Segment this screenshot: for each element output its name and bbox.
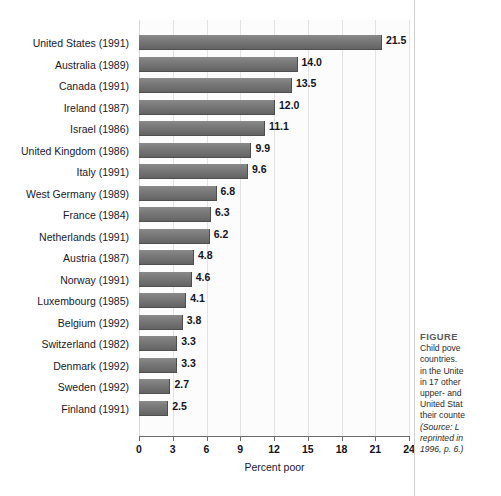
bar [139,401,168,416]
bar [139,250,194,265]
category-label: West Germany (1989) [0,184,134,206]
category-label: Canada (1991) [0,76,134,98]
x-tick [375,436,376,441]
bar [139,57,298,72]
caption-source-line: 1996, p. 6.) [420,444,501,455]
bar-row: 4.1 [139,291,409,313]
x-tick [139,436,140,441]
x-tick [207,436,208,441]
bar [139,121,265,136]
figure-page: United States (1991)Australia (1989)Cana… [0,0,501,496]
bar-value-label: 6.8 [216,185,236,197]
bar-row: 3.3 [139,334,409,356]
x-tick [409,436,410,441]
category-label: Switzerland (1982) [0,334,134,356]
caption-line: their counte [420,410,501,421]
bar [139,293,186,308]
bar [139,336,177,351]
bar-row: 14.0 [139,55,409,77]
x-tick-label: 18 [327,443,357,455]
category-label: Netherlands (1991) [0,227,134,249]
bar-row: 13.5 [139,76,409,98]
bar [139,100,275,115]
bar-row: 6.3 [139,205,409,227]
x-tick-label: 0 [124,443,154,455]
caption-line: in the Unite [420,366,501,377]
bar-row: 11.1 [139,119,409,141]
x-tick-label: 21 [360,443,390,455]
category-label: United States (1991) [0,33,134,55]
bar-row: 6.2 [139,227,409,249]
x-tick-label: 9 [225,443,255,455]
bar-row: 9.9 [139,141,409,163]
caption-source: (Source: Lreprinted in1996, p. 6.) [420,422,501,456]
bar [139,35,382,50]
bar-value-label: 9.6 [247,163,267,175]
category-label: Sweden (1992) [0,377,134,399]
bar [139,315,183,330]
category-label: Ireland (1987) [0,98,134,120]
caption-source-line: reprinted in [420,433,501,444]
bar-row: 2.7 [139,377,409,399]
bar-value-label: 6.2 [209,228,229,240]
x-tick-label: 6 [192,443,222,455]
bar [139,229,210,244]
caption-line: in 17 other [420,377,501,388]
bar-value-label: 4.6 [191,271,211,283]
bar-value-label: 4.1 [185,292,205,304]
category-label: Norway (1991) [0,270,134,292]
gridline [409,20,410,436]
category-label: Belgium (1992) [0,313,134,335]
figure-caption: FIGURE Child povecountries. in the Unite… [414,0,501,496]
caption-heading: FIGURE [420,331,501,342]
x-tick-label: 12 [259,443,289,455]
plot-area: 21.514.013.512.011.19.99.66.86.36.24.84.… [139,20,409,436]
caption-line: upper- and [420,388,501,399]
bar-row: 4.6 [139,270,409,292]
bar-value-label: 13.5 [291,77,316,89]
x-tick-label: 15 [293,443,323,455]
category-label: Australia (1989) [0,55,134,77]
x-axis-title: Percent poor [139,461,410,473]
bar-value-label: 3.3 [176,357,196,369]
category-label: Denmark (1992) [0,356,134,378]
bar [139,186,217,201]
bar-value-label: 6.3 [210,206,230,218]
bar-value-label: 4.8 [193,249,213,261]
category-label: Austria (1987) [0,248,134,270]
caption-source-line: (Source: L [420,422,501,433]
x-tick-label: 3 [158,443,188,455]
caption-line: countries. [420,354,501,365]
category-label: Italy (1991) [0,162,134,184]
bar-value-label: 3.3 [176,335,196,347]
category-label: Luxembourg (1985) [0,291,134,313]
bar-row: 3.8 [139,313,409,335]
caption-body: Child povecountries. in the Unitein 17 o… [420,343,501,421]
bar-value-label: 14.0 [297,56,322,68]
caption-line: Child pove [420,343,501,354]
x-tick [173,436,174,441]
caption-line: United Stat [420,399,501,410]
bar-row: 3.3 [139,356,409,378]
category-label: Israel (1986) [0,119,134,141]
bar [139,379,170,394]
bar-row: 12.0 [139,98,409,120]
x-tick [274,436,275,441]
bar-chart: United States (1991)Australia (1989)Cana… [0,0,414,496]
bar [139,272,192,287]
bar [139,143,251,158]
category-label: United Kingdom (1986) [0,141,134,163]
category-label: France (1984) [0,205,134,227]
bar-value-label: 2.5 [167,400,187,412]
bar-value-label: 21.5 [381,34,406,46]
bar-row: 4.8 [139,248,409,270]
x-tick [308,436,309,441]
bar-row: 6.8 [139,184,409,206]
x-tick [342,436,343,441]
bar-row: 2.5 [139,399,409,421]
category-label: Finland (1991) [0,399,134,421]
bar [139,358,177,373]
bar-row: 9.6 [139,162,409,184]
bar-value-label: 3.8 [182,314,202,326]
bar-value-label: 9.9 [250,142,270,154]
